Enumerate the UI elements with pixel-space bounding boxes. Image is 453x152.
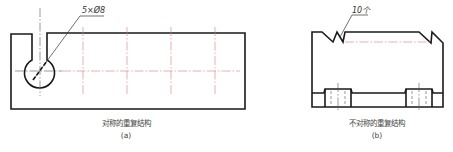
dimension-annotation-b: 10个: [352, 6, 371, 15]
figure-a: 5×Ø8 对称的重复结构 (a): [11, 5, 245, 140]
label-a: (a): [121, 131, 132, 140]
base-step-b: [312, 89, 443, 93]
leader-line-b: [340, 15, 352, 37]
caption-b: 不对称的重复结构: [349, 118, 406, 128]
drawing-canvas: 5×Ø8 对称的重复结构 (a) 10个 不对称的重复结构 (b): [0, 0, 453, 152]
dimension-annotation-a: 5×Ø8: [82, 5, 105, 15]
figure-b: 10个 不对称的重复结构 (b): [312, 6, 443, 140]
caption-a: 对称的重复结构: [102, 118, 152, 128]
label-b: (b): [372, 131, 383, 140]
body-outline-b: [312, 32, 443, 107]
